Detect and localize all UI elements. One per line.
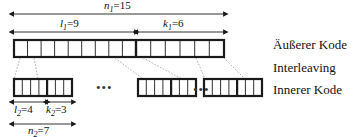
outer-total-eq: =15 bbox=[114, 0, 131, 11]
inner-blocks-ellipsis-2: ••• bbox=[193, 82, 210, 98]
inner-code-block-1 bbox=[14, 78, 72, 97]
outer-info-eq: =9 bbox=[67, 17, 79, 29]
inner-info-label: l2=4 bbox=[14, 104, 33, 119]
outer-total-label: n1=15 bbox=[104, 0, 131, 15]
inner-code-block-3 bbox=[204, 78, 262, 97]
side-label-interleaving: Interleaving bbox=[273, 61, 336, 75]
inner-total-eq: =7 bbox=[38, 124, 50, 136]
inner-total-label: n2=7 bbox=[28, 125, 49, 137]
inner-code-block-2 bbox=[138, 78, 196, 97]
inner-info-eq: =4 bbox=[21, 103, 33, 115]
interleaving-connectors bbox=[14, 58, 245, 79]
side-label-inner-code: Innerer Kode bbox=[273, 83, 342, 97]
inner-blocks-ellipsis-1: ••• bbox=[96, 80, 113, 96]
outer-info-label: l1=9 bbox=[60, 18, 79, 33]
outer-code-row bbox=[14, 39, 224, 58]
inner-parity-label: k2=3 bbox=[46, 104, 67, 119]
side-label-outer-code: Äußerer Kode bbox=[273, 38, 347, 52]
outer-parity-label: k1=6 bbox=[163, 18, 184, 33]
concatenated-code-figure: n1=15 l1=9 k1=6 l2=4 k2=3 n2=7 ••• ••• Ä… bbox=[0, 0, 361, 137]
outer-parity-eq: =6 bbox=[172, 17, 184, 29]
inner-parity-eq: =3 bbox=[55, 103, 67, 115]
